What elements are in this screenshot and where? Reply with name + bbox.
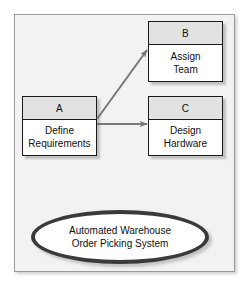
task-box-c[interactable]: C Design Hardware	[148, 96, 223, 156]
task-box-b-line2: Team	[173, 63, 197, 76]
task-box-a[interactable]: A Define Requirements	[22, 96, 97, 156]
task-box-c-line1: Design	[170, 124, 201, 137]
task-box-b-header: B	[149, 22, 222, 45]
task-box-c-id: C	[182, 103, 189, 114]
task-box-c-body: Design Hardware	[149, 120, 222, 154]
diagram-canvas: A Define Requirements B Assign Team C De…	[0, 0, 251, 285]
task-box-b-id: B	[182, 28, 189, 39]
system-ellipse-label: Automated Warehouse Order Picking System	[69, 224, 171, 250]
task-box-b[interactable]: B Assign Team	[148, 21, 223, 82]
task-box-a-line1: Define	[45, 124, 74, 137]
system-ellipse[interactable]: Automated Warehouse Order Picking System	[31, 210, 209, 264]
system-label-line1: Automated Warehouse	[69, 224, 171, 237]
system-label-line2: Order Picking System	[69, 237, 171, 250]
task-box-b-line1: Assign	[170, 50, 200, 63]
task-box-c-header: C	[149, 97, 222, 120]
task-box-a-header: A	[23, 97, 96, 120]
task-box-a-id: A	[56, 103, 63, 114]
task-box-c-line2: Hardware	[164, 137, 207, 150]
task-box-a-line2: Requirements	[28, 137, 90, 150]
task-box-b-body: Assign Team	[149, 45, 222, 80]
task-box-a-body: Define Requirements	[23, 120, 96, 154]
